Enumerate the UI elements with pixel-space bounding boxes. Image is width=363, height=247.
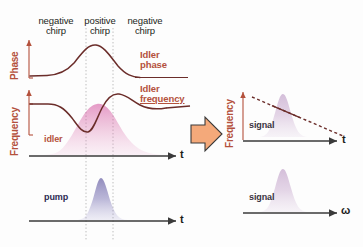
pump-t-axis-label: t (180, 214, 184, 226)
idler-pulse (40, 104, 168, 155)
chirp-region-2-line2: chirp (116, 26, 174, 36)
diagram-artwork (0, 0, 363, 247)
signal-omega-axis-label: ω (341, 205, 350, 217)
idler-t-axis-label: t (180, 149, 184, 161)
idler-phase-curve (30, 45, 140, 78)
idler-phase-label-line2: phase (140, 60, 167, 70)
frequency-axis-title: Frequency (10, 107, 21, 156)
pump-pulse-label: pump (44, 193, 68, 203)
frequency-subplot (29, 90, 33, 135)
chirp-region-2: negative chirp (116, 16, 174, 37)
signal-frequency-axis-title: Frequency (225, 99, 236, 148)
signal-spectrum-pulse-label: signal (249, 193, 274, 203)
signal-time-subplot (243, 92, 343, 141)
idler-frequency-label-line2: frequency (140, 94, 185, 104)
signal-time-pulse-label: signal (249, 121, 274, 131)
pump-pulse (76, 178, 128, 220)
phase-axis-title: Phase (10, 52, 21, 80)
block-arrow-right (191, 117, 222, 151)
idler-pulse-label: idler (44, 135, 63, 145)
signal-spectrum-subplot (243, 169, 337, 213)
figure-canvas: negative chirp positive chirp negative c… (0, 0, 363, 247)
signal-t-axis-label: t (342, 134, 346, 146)
idler-frequency-label: Idler frequency (140, 84, 185, 105)
idler-phase-label: Idler phase (140, 50, 167, 71)
